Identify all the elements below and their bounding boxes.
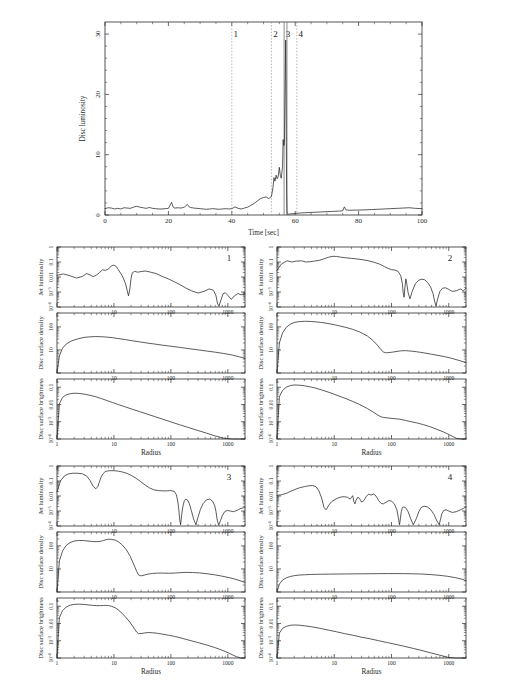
x-tick-label: 40	[228, 217, 236, 225]
x-tick-label: 1000	[443, 660, 454, 666]
y-tick-label: 1	[48, 245, 54, 248]
y-axis-label: Jet luminosity	[37, 477, 44, 515]
x-tick-label: 1000	[443, 441, 454, 447]
panel-1-number: 1	[227, 253, 232, 263]
x-tick-label: 80	[355, 217, 363, 225]
y-tick-label: 1	[48, 464, 54, 467]
y-axis-label: Disc surface brightness	[37, 378, 44, 440]
x-tick-label: 1000	[222, 660, 233, 666]
y-tick-label: 1	[268, 245, 274, 248]
x-tick-label: 100	[387, 441, 396, 447]
x-tick-label: 1	[56, 441, 59, 447]
y-tick-label: 0.1	[48, 384, 54, 391]
x-axis-label: Radius	[141, 449, 161, 457]
y-tick-label: 0.01	[48, 618, 54, 628]
panel-4-number: 4	[448, 472, 453, 482]
y-tick-label: 0.1	[268, 603, 274, 610]
x-tick-label: 100	[417, 217, 428, 225]
x-tick-label: 100	[167, 441, 176, 447]
y-tick-label: 0.1	[268, 258, 274, 265]
y-tick-label: 100	[268, 541, 274, 550]
x-tick-label: 60	[292, 217, 300, 225]
y-tick-label: 0.1	[48, 258, 54, 265]
multi-panel-accretion-figure: 02040608010001020301234Time [sec]Disc lu…	[0, 0, 508, 685]
y-tick-label: 0.1	[48, 603, 54, 610]
x-tick-label: 1	[276, 441, 279, 447]
y-axis-label: Disc surface brightness	[37, 597, 44, 659]
x-tick-label: 10	[111, 660, 117, 666]
y-tick-label: 0	[94, 213, 102, 217]
figure-background	[0, 0, 508, 685]
y-tick-label: 10	[48, 566, 54, 572]
x-tick-label: 1	[276, 660, 279, 666]
y-tick-label: 0.01	[268, 399, 274, 409]
y-axis-label: Disc surface brightness	[257, 378, 264, 440]
x-tick-label: 10	[331, 660, 337, 666]
y-tick-label: 10	[268, 347, 274, 353]
y-tick-label: 0.1	[48, 477, 54, 484]
y-axis-label: Disc surface density	[37, 316, 44, 370]
x-tick-label: 1	[56, 660, 59, 666]
y-tick-label: 30	[94, 30, 102, 38]
panel-3-number: 3	[227, 472, 232, 482]
marker-label-4: 4	[299, 29, 304, 39]
y-tick-label: 0.01	[268, 491, 274, 501]
y-tick-label: 0.01	[48, 399, 54, 409]
y-axis-label: Disc luminosity	[79, 95, 87, 141]
x-tick-label: 20	[165, 217, 173, 225]
x-tick-label: 10	[331, 441, 337, 447]
x-axis-label: Radius	[362, 449, 382, 457]
y-tick-label: 10	[268, 566, 274, 572]
y-tick-label: 100	[48, 322, 54, 331]
x-tick-label: 10	[111, 441, 117, 447]
y-tick-label: 100	[268, 322, 274, 331]
y-axis-label: Jet luminosity	[257, 258, 264, 296]
y-axis-label: Disc surface density	[257, 316, 264, 370]
x-axis-label: Radius	[362, 668, 382, 676]
marker-label-2: 2	[273, 29, 278, 39]
x-tick-label: 0	[103, 217, 107, 225]
y-tick-label: 0.01	[268, 272, 274, 282]
x-tick-label: 100	[387, 660, 396, 666]
x-axis-label: Time [sec]	[248, 229, 279, 237]
panel-2-number: 2	[448, 253, 453, 263]
x-tick-label: 100	[167, 660, 176, 666]
y-tick-label: 10	[48, 347, 54, 353]
y-tick-label: 0.1	[268, 384, 274, 391]
y-axis-label: Jet luminosity	[37, 258, 44, 296]
y-tick-label: 0.01	[48, 272, 54, 282]
y-tick-label: 20	[94, 90, 102, 98]
y-tick-label: 1	[268, 464, 274, 467]
y-tick-label: 100	[48, 541, 54, 550]
y-axis-label: Disc surface density	[37, 535, 44, 589]
marker-label-1: 1	[234, 29, 239, 39]
y-tick-label: 0.01	[48, 491, 54, 501]
y-tick-label: 0.01	[268, 618, 274, 628]
x-axis-label: Radius	[141, 668, 161, 676]
x-tick-label: 1000	[222, 441, 233, 447]
y-tick-label: 0.1	[268, 477, 274, 484]
y-tick-label: 10	[94, 151, 102, 159]
y-axis-label: Jet luminosity	[257, 477, 264, 515]
y-axis-label: Disc surface brightness	[257, 597, 264, 659]
y-axis-label: Disc surface density	[257, 535, 264, 589]
